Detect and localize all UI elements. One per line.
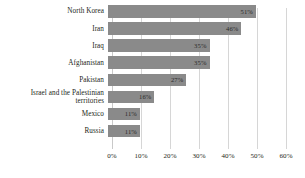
bar-russia: 11% (108, 125, 140, 137)
bar-track-pakistan: 27% (108, 71, 305, 88)
bar-track-russia: 11% (108, 123, 305, 140)
bar-chart: North Korea 51% Iran 46% Iraq 35% (0, 0, 305, 178)
bar-value-israel-palestinian-territories: 16% (139, 93, 154, 100)
bar-value-afghanistan: 35% (194, 59, 209, 66)
bar-mexico: 11% (108, 108, 140, 120)
xtick-label-60: 60% (279, 152, 292, 160)
category-label-pakistan: Pakistan (0, 76, 108, 84)
bar-value-iran: 46% (226, 25, 241, 32)
bar-track-iran: 46% (108, 20, 305, 37)
category-label-israel-palestinian-territories: Israel and the Palestinianterritories (0, 89, 108, 105)
category-label-line2: territories (76, 97, 105, 105)
bar-row-russia: Russia 11% (0, 123, 305, 140)
bar-row-iraq: Iraq 35% (0, 37, 305, 54)
xtick-label-50: 50% (250, 152, 263, 160)
bar-row-pakistan: Pakistan 27% (0, 71, 305, 88)
bar-value-pakistan: 27% (171, 76, 186, 83)
bar-row-mexico: Mexico 11% (0, 106, 305, 123)
bar-value-north-korea: 51% (241, 8, 256, 15)
bar-track-iraq: 35% (108, 37, 305, 54)
bar-rows: North Korea 51% Iran 46% Iraq 35% (0, 3, 305, 140)
bar-value-mexico: 11% (125, 110, 140, 117)
category-label-iraq: Iraq (0, 42, 108, 50)
bar-track-afghanistan: 35% (108, 54, 305, 71)
bar-afghanistan: 35% (108, 56, 210, 68)
bar-row-iran: Iran 46% (0, 20, 305, 37)
category-label-north-korea: North Korea (0, 7, 108, 15)
bar-value-iraq: 35% (194, 42, 209, 49)
xtick-label-0: 0% (107, 152, 117, 160)
bar-row-north-korea: North Korea 51% (0, 3, 305, 20)
bar-value-russia: 11% (125, 128, 140, 135)
xtick-label-30: 30% (192, 152, 205, 160)
x-axis: 0% 10% 20% 30% 40% 50% 60% (112, 152, 294, 164)
xtick-label-40: 40% (221, 152, 234, 160)
category-label-mexico: Mexico (0, 110, 108, 118)
bar-track-israel-palestinian-territories: 16% (108, 88, 305, 105)
bar-israel-palestinian-territories: 16% (108, 91, 154, 103)
category-label-iran: Iran (0, 25, 108, 33)
bar-track-mexico: 11% (108, 106, 305, 123)
category-label-russia: Russia (0, 127, 108, 135)
xtick-label-20: 20% (163, 152, 176, 160)
bar-iraq: 35% (108, 39, 210, 51)
bar-north-korea: 51% (108, 5, 256, 17)
bar-row-israel-palestinian-territories: Israel and the Palestinianterritories 16… (0, 88, 305, 105)
xtick-label-10: 10% (134, 152, 147, 160)
category-label-afghanistan: Afghanistan (0, 59, 108, 67)
bar-row-afghanistan: Afghanistan 35% (0, 54, 305, 71)
bar-pakistan: 27% (108, 74, 186, 86)
bar-iran: 46% (108, 22, 241, 34)
category-label-line1: Israel and the Palestinian (31, 89, 104, 97)
bar-track-north-korea: 51% (108, 3, 305, 20)
